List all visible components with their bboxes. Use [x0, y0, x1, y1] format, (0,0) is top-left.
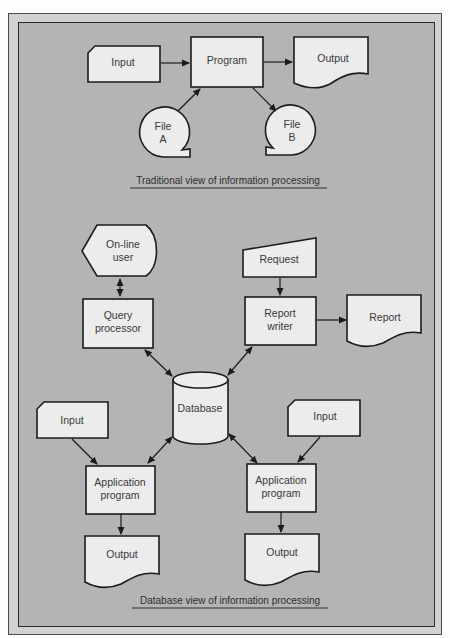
- information-processing-diagram: Input Program Output File A File B Tradi…: [0, 0, 450, 638]
- input-card-left: Input: [37, 402, 108, 438]
- input-card-right: Input: [288, 400, 360, 436]
- file-a-label-line1: File: [155, 120, 172, 132]
- edge-filea-to-program: [176, 89, 200, 113]
- report-writer-label-line1: Report: [264, 307, 296, 319]
- query-processor-label-line1: Query: [104, 309, 133, 321]
- report-writer-box: Report writer: [245, 297, 316, 345]
- traditional-caption: Traditional view of information processi…: [136, 175, 320, 186]
- input-card-traditional: Input: [88, 46, 160, 82]
- file-a-label-line2: A: [159, 133, 166, 145]
- output-right-label: Output: [266, 546, 298, 558]
- program-label: Program: [207, 54, 248, 66]
- app-left-label-line2: program: [100, 489, 139, 501]
- input-label: Input: [111, 56, 134, 68]
- file-a-tape: File A: [140, 107, 190, 157]
- output-document-right: Output: [245, 534, 319, 585]
- program-box: Program: [191, 37, 263, 87]
- request-label: Request: [259, 253, 298, 265]
- online-user-label-line1: On-line: [106, 238, 140, 250]
- edge-database-app-right: [229, 434, 257, 463]
- database-caption: Database view of information processing: [140, 595, 320, 606]
- database-cylinder: Database: [173, 372, 228, 444]
- file-b-label-line1: File: [284, 118, 301, 130]
- application-program-right: Application program: [247, 464, 316, 512]
- query-processor-box: Query processor: [83, 299, 153, 348]
- query-processor-label-line2: processor: [95, 322, 142, 334]
- app-right-label-line1: Application: [255, 474, 307, 486]
- database-view: On-line user Query processor Request Rep…: [37, 225, 421, 608]
- app-right-label-line2: program: [261, 487, 300, 499]
- input-right-label: Input: [313, 410, 336, 422]
- output-document-traditional: Output: [294, 37, 368, 88]
- application-program-left: Application program: [86, 466, 155, 514]
- edge-input-left-to-app-left: [72, 439, 97, 464]
- traditional-view: Input Program Output File A File B Tradi…: [88, 37, 368, 188]
- file-b-label-line2: B: [288, 131, 295, 143]
- database-label: Database: [178, 402, 223, 414]
- edge-program-to-fileb: [253, 88, 276, 111]
- edge-database-app-left: [148, 437, 172, 463]
- output-left-label: Output: [106, 548, 138, 560]
- edge-query-processor-database: [145, 350, 172, 376]
- app-left-label-line1: Application: [94, 476, 146, 488]
- online-user-label-line2: user: [113, 251, 134, 263]
- output-label: Output: [317, 52, 349, 64]
- report-writer-label-line2: writer: [266, 320, 293, 332]
- online-user-display: On-line user: [82, 225, 157, 276]
- report-label: Report: [369, 311, 401, 323]
- edge-input-right-to-app-right: [298, 437, 320, 462]
- request-manual-input: Request: [243, 238, 316, 277]
- file-b-tape: File B: [265, 105, 315, 155]
- input-left-label: Input: [60, 414, 83, 426]
- edge-report-writer-database: [228, 347, 252, 375]
- output-document-left: Output: [85, 536, 159, 587]
- report-document: Report: [347, 295, 421, 346]
